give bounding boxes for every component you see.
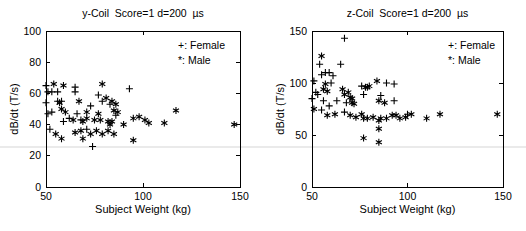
data-point-male-z-coil-center-dot <box>395 114 397 116</box>
data-point-female-y-coil <box>74 110 81 117</box>
data-point-male-z-coil-center-dot <box>334 113 336 115</box>
data-point-female-z-coil <box>333 97 340 104</box>
data-point-male-y-coil-center-dot <box>123 124 125 126</box>
y-tick-label-y-coil: 20 <box>29 149 41 161</box>
data-point-male-z-coil-center-dot <box>361 113 363 115</box>
data-point-male-y-coil-center-dot <box>148 122 150 124</box>
data-point-male-y-coil-center-dot <box>53 83 55 85</box>
scatter-figure-svg: 50100150020406080100y-Coil Score=1 d=200… <box>0 0 526 231</box>
y-axis-label-z-coil: dB/dt (T/s) <box>274 83 286 134</box>
axes-box-y-coil <box>46 31 240 187</box>
data-point-female-z-coil <box>318 107 325 114</box>
data-point-male-z-coil-center-dot <box>391 114 393 116</box>
data-point-female-z-coil <box>341 109 348 116</box>
legend-entry-y-coil: *: Male <box>178 54 211 66</box>
data-point-male-y-coil-center-dot <box>138 116 140 118</box>
data-point-male-y-coil-center-dot <box>61 108 63 110</box>
data-point-female-z-coil <box>320 97 327 104</box>
legend-entry-z-coil: *: Male <box>448 54 481 66</box>
y-tick-label-z-coil: 150 <box>289 25 307 37</box>
data-point-female-z-coil <box>310 77 317 84</box>
data-point-male-z-coil-center-dot <box>410 113 412 115</box>
data-point-male-y-coil-center-dot <box>82 138 84 140</box>
data-point-male-y-coil-center-dot <box>233 124 235 126</box>
data-point-male-z-coil-center-dot <box>321 55 323 57</box>
data-point-male-y-coil-center-dot <box>101 133 103 135</box>
x-tick-label-z-coil: 50 <box>306 190 318 202</box>
data-point-male-z-coil-center-dot <box>326 90 328 92</box>
data-point-female-z-coil <box>316 61 323 68</box>
data-point-female-y-coil <box>95 91 102 98</box>
data-point-female-z-coil <box>328 80 335 87</box>
data-point-male-y-coil-center-dot <box>107 120 109 122</box>
data-point-male-z-coil-center-dot <box>378 141 380 143</box>
data-point-female-y-coil <box>48 109 55 116</box>
data-point-male-y-coil-center-dot <box>86 111 88 113</box>
x-tick-label-y-coil: 50 <box>40 190 52 202</box>
data-point-male-y-coil-center-dot <box>97 113 99 115</box>
data-point-male-z-coil-center-dot <box>324 83 326 85</box>
figure-canvas: 50100150020406080100y-Coil Score=1 d=200… <box>0 0 526 231</box>
data-point-male-y-coil-center-dot <box>94 119 96 121</box>
data-point-male-y-coil-center-dot <box>55 133 57 135</box>
data-point-male-z-coil-center-dot <box>372 116 374 118</box>
data-point-male-z-coil-center-dot <box>355 116 357 118</box>
data-point-female-y-coil <box>87 102 94 109</box>
data-point-male-z-coil-center-dot <box>342 88 344 90</box>
x-axis-label-z-coil: Subject Weight (kg) <box>360 203 456 215</box>
data-point-female-y-coil <box>89 143 96 150</box>
data-point-male-y-coil-center-dot <box>101 83 103 85</box>
data-point-male-z-coil-center-dot <box>366 117 368 119</box>
x-tick-label-y-coil: 150 <box>231 190 249 202</box>
data-point-male-y-coil-center-dot <box>82 120 84 122</box>
data-point-female-y-coil <box>46 126 53 133</box>
data-point-female-z-coil <box>330 72 337 79</box>
data-point-male-z-coil-center-dot <box>405 116 407 118</box>
data-point-male-z-coil-center-dot <box>380 117 382 119</box>
data-point-male-y-coil-center-dot <box>111 120 113 122</box>
x-tick-label-z-coil: 150 <box>494 190 512 202</box>
data-point-male-z-coil-center-dot <box>385 117 387 119</box>
data-point-male-y-coil-center-dot <box>117 111 119 113</box>
data-point-male-z-coil-center-dot <box>426 117 428 119</box>
data-point-female-y-coil <box>43 82 50 89</box>
x-axis-label-y-coil: Subject Weight (kg) <box>95 203 191 215</box>
data-point-male-z-coil-center-dot <box>439 113 441 115</box>
data-point-male-y-coil-center-dot <box>163 122 165 124</box>
y-tick-label-z-coil: 50 <box>295 129 307 141</box>
data-point-female-y-coil <box>44 110 51 117</box>
data-point-male-z-coil-center-dot <box>313 108 315 110</box>
data-point-male-y-coil-center-dot <box>113 133 115 135</box>
data-point-male-y-coil-center-dot <box>144 119 146 121</box>
y-tick-label-z-coil: 0 <box>301 181 307 193</box>
data-point-male-z-coil-center-dot <box>363 117 365 119</box>
data-point-female-z-coil <box>341 35 348 42</box>
data-point-male-y-coil-center-dot <box>64 111 66 113</box>
legend-entry-y-coil: +: Female <box>178 39 225 51</box>
y-tick-label-y-coil: 100 <box>23 25 41 37</box>
y-tick-label-y-coil: 0 <box>35 181 41 193</box>
data-point-male-y-coil-center-dot <box>113 110 115 112</box>
data-point-female-z-coil <box>391 97 398 104</box>
y-tick-label-y-coil: 40 <box>29 118 41 130</box>
data-point-male-y-coil-center-dot <box>105 97 107 99</box>
data-point-female-z-coil <box>391 81 398 88</box>
data-point-male-y-coil-center-dot <box>99 119 101 121</box>
data-point-male-z-coil-center-dot <box>496 113 498 115</box>
data-point-male-y-coil-center-dot <box>111 100 113 102</box>
data-point-female-z-coil <box>383 80 390 87</box>
y-tick-label-y-coil: 80 <box>29 56 41 68</box>
data-point-male-z-coil-center-dot <box>376 80 378 82</box>
plot-title-z-coil: z-Coil Score=1 d=200 µs <box>347 7 469 19</box>
data-point-male-z-coil-center-dot <box>378 128 380 130</box>
data-point-male-y-coil-center-dot <box>109 124 111 126</box>
y-tick-label-z-coil: 100 <box>289 77 307 89</box>
data-point-male-y-coil-center-dot <box>107 130 109 132</box>
data-point-male-y-coil-center-dot <box>61 138 63 140</box>
data-point-female-y-coil <box>60 118 67 125</box>
data-point-female-z-coil <box>326 102 333 109</box>
data-point-male-z-coil-center-dot <box>384 102 386 104</box>
data-point-male-y-coil-center-dot <box>62 85 64 87</box>
x-tick-label-y-coil: 100 <box>134 190 152 202</box>
data-point-male-z-coil-center-dot <box>368 85 370 87</box>
